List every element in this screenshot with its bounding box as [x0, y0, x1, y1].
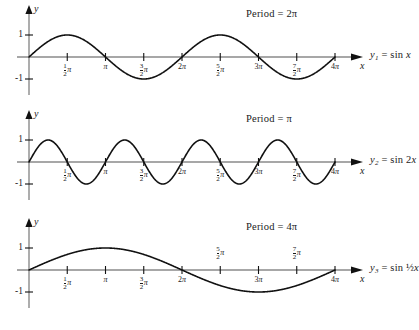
- pi-symbol: π: [67, 278, 71, 287]
- graph-sin-half-x-plot: [0, 213, 402, 323]
- x-tick-label: 72 π: [281, 63, 313, 78]
- pi-symbol: π: [220, 65, 224, 74]
- x-tick-label: 2π: [166, 168, 198, 176]
- x-tick-label: 12 π: [51, 63, 83, 78]
- x-tick-label: 32 π: [128, 63, 160, 78]
- function-label: y2 = sin 2x: [370, 154, 416, 167]
- period-label: Period = 2π: [246, 8, 297, 19]
- x-tick-label: 72 π: [281, 246, 313, 261]
- pi-symbol: π: [335, 167, 339, 176]
- x-axis-letter: x: [360, 273, 364, 284]
- pi-symbol: π: [67, 170, 71, 179]
- x-tick-label: 4π: [319, 168, 351, 176]
- pi-symbol: π: [297, 170, 301, 179]
- fraction: 32: [140, 63, 144, 78]
- pi-symbol: π: [182, 167, 186, 176]
- x-tick-label: 52 π: [204, 168, 236, 183]
- y-axis-arrowhead: [25, 5, 32, 14]
- fraction: 52: [216, 246, 220, 261]
- x-tick-label: 2π: [166, 276, 198, 284]
- x-axis-letter: x: [360, 165, 364, 176]
- pi-symbol: π: [297, 65, 301, 74]
- fraction: 12: [63, 63, 67, 78]
- x-tick-label: 12 π: [51, 276, 83, 291]
- y-axis-letter: y: [34, 3, 38, 14]
- y-axis-letter: y: [34, 216, 38, 227]
- graph-sin-2x-plot: [0, 105, 402, 215]
- fraction: 72: [293, 63, 297, 78]
- y-tick-label: -1: [3, 178, 23, 188]
- pi-symbol: π: [258, 275, 262, 284]
- period-label: Period = 4π: [246, 221, 297, 232]
- fraction: 32: [140, 276, 144, 291]
- pi-symbol: π: [144, 170, 148, 179]
- pi-symbol: π: [182, 275, 186, 284]
- period-label: Period = π: [246, 113, 292, 124]
- pi-symbol: π: [258, 62, 262, 71]
- pi-symbol: π: [258, 167, 262, 176]
- x-tick-label: 52 π: [204, 63, 236, 78]
- function-label: y3 = sin ½x: [370, 262, 419, 275]
- x-tick-label: π: [90, 168, 122, 176]
- x-tick-label: 72 π: [281, 168, 313, 183]
- y-axis-letter: y: [34, 108, 38, 119]
- x-tick-label: 3π: [243, 168, 275, 176]
- x-tick-label: 12 π: [51, 168, 83, 183]
- y-tick-label: -1: [3, 73, 23, 83]
- pi-symbol: π: [103, 275, 107, 284]
- fraction: 12: [63, 168, 67, 183]
- fraction: 32: [140, 168, 144, 183]
- y-tick-label: 1: [3, 242, 23, 252]
- x-tick-label: 4π: [319, 63, 351, 71]
- fraction: 72: [293, 246, 297, 261]
- x-tick-label: 4π: [319, 276, 351, 284]
- pi-symbol: π: [182, 62, 186, 71]
- y-tick-label: -1: [3, 286, 23, 296]
- fraction: 12: [63, 276, 67, 291]
- x-tick-label: 52 π: [204, 246, 236, 261]
- y-tick-label: 1: [3, 29, 23, 39]
- y-axis-arrowhead: [25, 218, 32, 227]
- pi-symbol: π: [144, 65, 148, 74]
- pi-symbol: π: [103, 167, 107, 176]
- function-label: y1 = sin x: [370, 49, 411, 62]
- graph-panel-sin-2x: yx1-112 ππ32 π2π52 π3π72 π4πPeriod = πy2…: [0, 105, 402, 215]
- pi-symbol: π: [297, 248, 301, 257]
- graph-sin-x-plot: [0, 0, 402, 110]
- fraction: 52: [216, 63, 220, 78]
- pi-symbol: π: [220, 248, 224, 257]
- x-tick-label: π: [90, 276, 122, 284]
- pi-symbol: π: [103, 62, 107, 71]
- fraction: 52: [216, 168, 220, 183]
- x-tick-label: 32 π: [128, 276, 160, 291]
- x-axis-letter: x: [360, 60, 364, 71]
- y-axis-arrowhead: [25, 110, 32, 119]
- x-tick-label: 3π: [243, 63, 275, 71]
- x-tick-label: 2π: [166, 63, 198, 71]
- pi-symbol: π: [335, 62, 339, 71]
- x-tick-label: 32 π: [128, 168, 160, 183]
- pi-symbol: π: [220, 170, 224, 179]
- fraction: 72: [293, 168, 297, 183]
- graph-panel-sin-half-x: yx1-112 ππ32 π2π52 π3π72 π4πPeriod = 4πy…: [0, 213, 402, 323]
- x-tick-label: π: [90, 63, 122, 71]
- graph-panel-sin-x: yx1-112 ππ32 π2π52 π3π72 π4πPeriod = 2πy…: [0, 0, 402, 110]
- pi-symbol: π: [335, 275, 339, 284]
- pi-symbol: π: [67, 65, 71, 74]
- x-tick-label: 3π: [243, 276, 275, 284]
- y-tick-label: 1: [3, 134, 23, 144]
- pi-symbol: π: [144, 278, 148, 287]
